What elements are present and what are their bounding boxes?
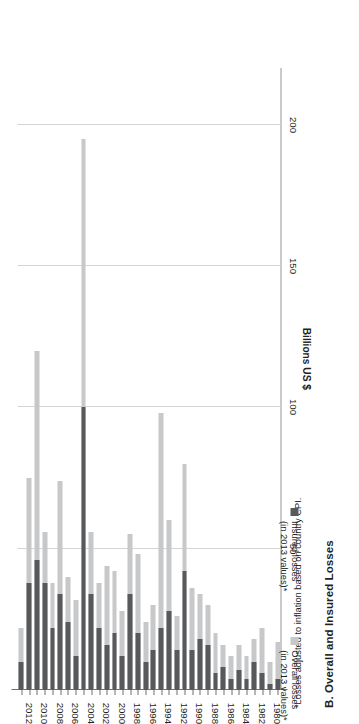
bar-segment-insured-1986: [228, 679, 233, 690]
legend-label-line2-insured: (in 2013 values)*: [277, 521, 288, 591]
category-tick-2001: [114, 690, 115, 695]
year-label-1994: 1994: [162, 696, 173, 724]
bar-segment-insured-2000: [119, 656, 124, 690]
bar-segment-insured-1985: [236, 670, 241, 690]
category-tick-1995: [161, 690, 162, 695]
bar-2006: [73, 68, 78, 690]
year-label-1992: 1992: [178, 696, 189, 724]
category-tick-1981: [269, 690, 270, 695]
page-title: B. Overall and Insured Losses: [322, 540, 334, 708]
gridline-150: [17, 265, 281, 266]
bar-1997: [143, 68, 148, 690]
category-tick-1987: [223, 690, 224, 695]
legend-label-line2-overall: (in 2013 values)*: [277, 650, 288, 720]
bar-1999: [127, 68, 132, 690]
gridline-50: [17, 548, 281, 549]
category-tick-1992: [184, 690, 185, 695]
value-tick-label-100: 100: [287, 399, 298, 415]
bar-2009: [50, 68, 55, 690]
year-label-1986: 1986: [225, 696, 236, 724]
bar-2003: [96, 68, 101, 690]
year-label-2000: 2000: [116, 696, 127, 724]
bar-segment-insured-1989: [205, 645, 210, 690]
category-tick-2013: [21, 690, 22, 695]
legend-label-insured: Insured losses(in 2013 values)*: [277, 521, 300, 591]
legend-item-overall: Overall losses(in 2013 values)*: [277, 637, 300, 720]
bar-2005: [81, 68, 86, 690]
category-tick-2012: [29, 690, 30, 695]
category-tick-1989: [207, 690, 208, 695]
category-tick-2011: [36, 690, 37, 695]
category-tick-2010: [44, 690, 45, 695]
bar-1995: [158, 68, 163, 690]
year-label-2010: 2010: [38, 696, 49, 724]
bar-segment-insured-2010: [42, 583, 47, 690]
category-tick-1997: [145, 690, 146, 695]
year-label-1996: 1996: [147, 696, 158, 724]
bar-segment-insured-1999: [127, 594, 132, 690]
bar-1994: [166, 68, 171, 690]
bar-segment-insured-2001: [112, 633, 117, 690]
legend-item-insured: Insured losses(in 2013 values)*: [277, 508, 300, 591]
bar-segment-insured-2002: [104, 645, 109, 690]
legend-swatch-insured: [290, 508, 298, 516]
category-tick-2004: [91, 690, 92, 695]
year-label-2002: 2002: [100, 696, 111, 724]
bar-2010: [42, 68, 47, 690]
bar-segment-insured-1993: [174, 650, 179, 690]
year-label-2006: 2006: [69, 696, 80, 724]
category-tick-2007: [67, 690, 68, 695]
bar-segment-insured-1983: [251, 662, 256, 690]
category-tick-2005: [83, 690, 84, 695]
bar-1984: [244, 68, 249, 690]
value-axis-title: Billions US $: [300, 328, 311, 390]
bar-1991: [189, 68, 194, 690]
category-tick-2006: [75, 690, 76, 695]
legend-label-line1-overall: Overall losses: [289, 650, 300, 720]
year-label-1984: 1984: [240, 696, 251, 724]
category-tick-1984: [246, 690, 247, 695]
bar-segment-insured-1988: [213, 673, 218, 690]
legend-label-overall: Overall losses(in 2013 values)*: [277, 650, 300, 720]
bar-segment-insured-2011: [34, 560, 39, 690]
bar-1996: [150, 68, 155, 690]
bar-segment-insured-2008: [57, 594, 62, 690]
bar-1988: [213, 68, 218, 690]
bar-segment-insured-2013: [18, 662, 23, 690]
category-tick-1996: [153, 690, 154, 695]
category-tick-1993: [176, 690, 177, 695]
year-label-1998: 1998: [131, 696, 142, 724]
category-tick-1986: [231, 690, 232, 695]
bar-2001: [112, 68, 117, 690]
bar-segment-insured-1984: [244, 679, 249, 690]
bar-segment-insured-1987: [220, 667, 225, 690]
category-tick-1994: [168, 690, 169, 695]
bar-1989: [205, 68, 210, 690]
category-tick-1990: [199, 690, 200, 695]
bar-1981: [267, 68, 272, 690]
bar-2007: [65, 68, 70, 690]
bar-1983: [251, 68, 256, 690]
category-tick-2008: [60, 690, 61, 695]
bar-segment-insured-2006: [73, 656, 78, 690]
category-tick-1991: [192, 690, 193, 695]
bar-2002: [104, 68, 109, 690]
category-tick-1998: [137, 690, 138, 695]
category-tick-1985: [238, 690, 239, 695]
bar-1990: [197, 68, 202, 690]
category-tick-2002: [106, 690, 107, 695]
bar-2004: [88, 68, 93, 690]
bar-1987: [220, 68, 225, 690]
category-tick-1983: [254, 690, 255, 695]
gridline-100: [17, 406, 281, 407]
category-tick-1982: [262, 690, 263, 695]
category-tick-2009: [52, 690, 53, 695]
legend-swatch-overall: [290, 637, 298, 645]
year-label-2008: 2008: [54, 696, 65, 724]
bar-1993: [174, 68, 179, 690]
year-label-1990: 1990: [193, 696, 204, 724]
bar-segment-insured-1995: [158, 628, 163, 690]
category-tick-1999: [130, 690, 131, 695]
bar-2000: [119, 68, 124, 690]
value-tick-label-150: 150: [287, 258, 298, 274]
